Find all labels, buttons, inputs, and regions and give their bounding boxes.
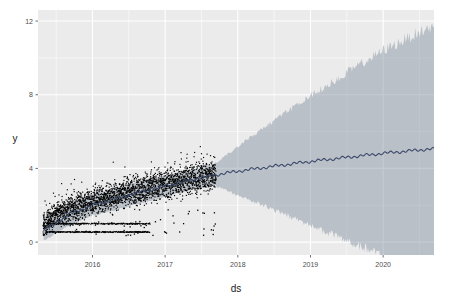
data-point	[150, 176, 151, 177]
data-point	[181, 186, 182, 187]
data-point	[207, 179, 208, 180]
data-point	[142, 179, 143, 180]
data-point	[125, 189, 126, 190]
data-point	[88, 213, 89, 214]
data-point	[99, 190, 100, 191]
y-tick-label: 4	[29, 165, 33, 172]
data-point	[206, 171, 207, 172]
data-point	[180, 194, 181, 195]
data-point	[170, 189, 171, 190]
data-point	[134, 202, 135, 203]
data-point	[203, 157, 204, 158]
data-point	[194, 152, 195, 153]
data-point	[94, 208, 95, 209]
data-point	[109, 195, 110, 196]
data-point-outlier	[43, 218, 44, 219]
data-point	[169, 199, 170, 200]
data-point	[134, 188, 135, 189]
data-point	[146, 176, 147, 177]
data-point-floor	[113, 231, 114, 232]
data-point	[115, 183, 116, 184]
data-point	[197, 172, 198, 173]
data-point	[165, 175, 166, 176]
data-point	[179, 175, 180, 176]
data-point	[72, 216, 73, 217]
data-point	[201, 181, 202, 182]
data-point	[126, 199, 127, 200]
data-point	[64, 211, 65, 212]
data-point	[163, 189, 164, 190]
data-point	[140, 194, 141, 195]
data-point	[81, 215, 82, 216]
data-point	[109, 189, 110, 190]
data-point	[215, 182, 216, 183]
data-point	[135, 173, 136, 174]
data-point	[50, 217, 51, 218]
data-point	[200, 180, 201, 181]
data-point	[75, 202, 76, 203]
data-point	[87, 191, 88, 192]
data-point	[85, 194, 86, 195]
data-point	[57, 214, 58, 215]
data-point	[159, 191, 160, 192]
data-point	[171, 181, 172, 182]
data-point	[140, 188, 141, 189]
data-point	[200, 188, 201, 189]
data-point	[163, 193, 164, 194]
data-point	[167, 162, 168, 163]
data-point-outlier	[76, 229, 77, 230]
data-point-floor	[67, 223, 68, 224]
data-point	[193, 156, 194, 157]
data-point	[110, 202, 111, 203]
data-point	[65, 204, 66, 205]
data-point	[116, 192, 117, 193]
data-point	[198, 161, 199, 162]
data-point	[167, 177, 168, 178]
data-point-outlier	[102, 211, 103, 212]
data-point	[110, 195, 111, 196]
data-point	[68, 199, 69, 200]
data-point	[211, 161, 212, 162]
data-point	[155, 179, 156, 180]
y-tick-label: 12	[25, 18, 33, 25]
data-point-floor	[119, 223, 120, 224]
data-point	[118, 203, 119, 204]
data-point	[164, 176, 165, 177]
data-point	[146, 195, 147, 196]
data-point	[55, 217, 56, 218]
data-point	[62, 206, 63, 207]
data-point	[49, 228, 50, 229]
data-point	[150, 171, 151, 172]
data-point	[65, 212, 66, 213]
data-point	[106, 182, 107, 183]
data-point	[184, 176, 185, 177]
data-point	[131, 182, 132, 183]
data-point	[116, 210, 117, 211]
data-point	[200, 172, 201, 173]
data-point	[175, 190, 176, 191]
data-point	[51, 218, 52, 219]
data-point	[58, 212, 59, 213]
data-point	[46, 229, 47, 230]
data-point	[187, 179, 188, 180]
data-point-outlier	[155, 221, 156, 222]
data-point	[54, 205, 55, 206]
data-point	[181, 158, 182, 159]
data-point	[155, 173, 156, 174]
data-point-outlier	[43, 216, 44, 217]
data-point	[78, 215, 79, 216]
data-point	[210, 184, 211, 185]
data-point	[188, 185, 189, 186]
data-point	[57, 201, 58, 202]
data-point-outlier	[188, 213, 189, 214]
data-point-floor	[59, 223, 60, 224]
data-point	[132, 184, 133, 185]
data-point	[94, 200, 95, 201]
data-point	[186, 195, 187, 196]
data-point	[154, 199, 155, 200]
data-point	[173, 192, 174, 193]
data-point	[161, 176, 162, 177]
data-point-outlier	[49, 223, 50, 224]
data-point	[94, 190, 95, 191]
data-point	[214, 186, 215, 187]
